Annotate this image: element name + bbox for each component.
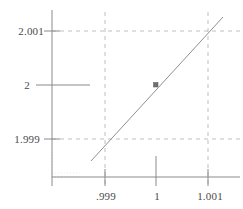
y-axis-label-bottom: 1.999 (2, 133, 40, 145)
x-axis-label-left: .999 (96, 190, 116, 202)
y-tick-marks (36, 31, 90, 139)
point-marker (154, 83, 159, 88)
x-axis-label-right: 1.001 (197, 190, 223, 202)
y-axis-label-middle: 2 (6, 79, 30, 91)
x-tick-marks (105, 156, 208, 186)
origin-dotted-corner (52, 152, 82, 177)
chart-figure: 2.001 2 1.999 .999 1 1.001 (0, 0, 243, 209)
y-axis-label-top: 2.001 (6, 25, 44, 37)
x-axis-label-center: 1 (154, 190, 160, 202)
